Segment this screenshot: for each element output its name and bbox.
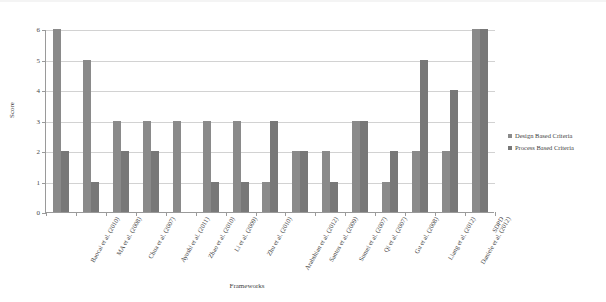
bar-group — [76, 30, 106, 212]
x-axis-category-label: Chua et al. (2007) — [147, 216, 176, 260]
x-axis-tick — [495, 212, 496, 216]
bar — [173, 121, 181, 213]
scan-edge — [0, 0, 606, 2]
bar — [420, 60, 428, 213]
bar-group — [315, 30, 345, 212]
x-axis-category-label: Baocai et al. (2010) — [90, 216, 121, 264]
y-axis-tick-label: 4 — [37, 88, 41, 95]
bar-group — [256, 30, 286, 212]
bar-group — [196, 30, 226, 212]
bar — [322, 151, 330, 212]
bar — [412, 151, 420, 212]
x-axis-category-label: Gu et al. (2008) — [414, 216, 440, 255]
bar-group — [405, 30, 435, 212]
x-axis-category-label: Liang et al. (2012) — [447, 216, 477, 261]
bar-group — [46, 30, 76, 212]
bar-chart: Score 0123456 Baocai et al. (2010)MA et … — [0, 0, 606, 302]
bar — [53, 29, 61, 212]
x-axis-category-label: Zhu et al. (2010) — [265, 216, 292, 257]
bar — [292, 151, 300, 212]
legend-swatch-icon — [508, 146, 512, 150]
x-axis-category-label: MA et al. (2008) — [116, 216, 143, 257]
plot-area: 0123456 — [45, 30, 494, 213]
bar — [262, 182, 270, 213]
bar — [61, 151, 69, 212]
x-axis-category-label: Sumei et al. (2007) — [358, 216, 389, 262]
x-axis-category-label: Ayushi et al. (2011) — [179, 216, 210, 264]
y-axis-tick-label: 3 — [37, 118, 41, 125]
y-axis-tick-label: 2 — [37, 149, 41, 156]
bar — [121, 151, 129, 212]
bar-group — [106, 30, 136, 212]
bar-group — [136, 30, 166, 212]
bar-group — [166, 30, 196, 212]
bar-group — [375, 30, 405, 212]
x-axis-category-label: Zhao et al. (2010) — [207, 216, 236, 260]
bar — [330, 182, 338, 213]
bar — [360, 121, 368, 213]
bar-group — [465, 30, 495, 212]
x-axis-category-labels: Baocai et al. (2010)MA et al. (2008)Chua… — [45, 214, 494, 284]
legend-label: Process Based Criteria — [515, 145, 574, 152]
bar — [442, 151, 450, 212]
bar — [91, 182, 99, 213]
legend-label: Design Based Criteria — [515, 133, 572, 140]
legend-item[interactable]: Design Based Criteria — [508, 133, 606, 140]
x-axis-title: Frameworks — [0, 283, 494, 290]
bar — [113, 121, 121, 213]
x-axis-category-label: Li et al. (2009) — [233, 216, 258, 253]
bar — [83, 60, 91, 213]
bar — [203, 121, 211, 213]
bar — [143, 121, 151, 213]
bar — [390, 151, 398, 212]
y-axis-tick-label: 5 — [37, 57, 41, 64]
bar — [382, 182, 390, 213]
bar — [450, 90, 458, 212]
bar-group — [285, 30, 315, 212]
y-axis-tick-label: 0 — [37, 210, 41, 217]
bar — [211, 182, 219, 213]
y-axis-tick-label: 1 — [37, 179, 41, 186]
chart-legend: Design Based CriteriaProcess Based Crite… — [508, 133, 606, 156]
legend-swatch-icon — [508, 134, 512, 138]
bar — [352, 121, 360, 213]
bar-group — [226, 30, 256, 212]
legend-item[interactable]: Process Based Criteria — [508, 145, 606, 152]
bar — [300, 151, 308, 212]
bar — [480, 29, 488, 212]
bar-group — [435, 30, 465, 212]
bar — [241, 182, 249, 213]
y-axis-tick-label: 6 — [37, 27, 41, 34]
bar — [270, 121, 278, 213]
bar — [472, 29, 480, 212]
bar — [151, 151, 159, 212]
bar — [233, 121, 241, 213]
y-axis-title: Score — [9, 102, 16, 118]
bar-group — [345, 30, 375, 212]
